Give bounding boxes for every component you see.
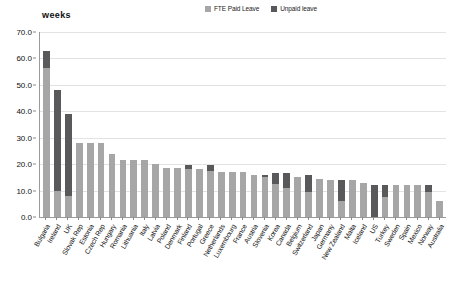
bar-stack[interactable] — [207, 165, 214, 217]
bar-column[interactable] — [128, 32, 139, 217]
bar-stack[interactable] — [316, 179, 323, 217]
bar-stack[interactable] — [349, 180, 356, 217]
bar-column[interactable] — [117, 32, 128, 217]
bar-stack[interactable] — [218, 172, 225, 217]
bar-stack[interactable] — [229, 172, 236, 217]
bar-segment-fte-paid-leave[interactable] — [163, 168, 170, 217]
bar-segment-fte-paid-leave[interactable] — [425, 192, 432, 217]
bar-column[interactable] — [194, 32, 205, 217]
bar-segment-fte-paid-leave[interactable] — [141, 160, 148, 217]
bar-stack[interactable] — [120, 160, 127, 217]
bar-stack[interactable] — [54, 90, 61, 217]
bar-column[interactable] — [270, 32, 281, 217]
bar-stack[interactable] — [87, 143, 94, 217]
bar-stack[interactable] — [152, 164, 159, 217]
bar-segment-fte-paid-leave[interactable] — [174, 168, 181, 217]
bar-column[interactable] — [336, 32, 347, 217]
bar-segment-fte-paid-leave[interactable] — [393, 185, 400, 217]
bar-column[interactable] — [161, 32, 172, 217]
bar-stack[interactable] — [338, 180, 345, 217]
bar-segment-fte-paid-leave[interactable] — [218, 172, 225, 217]
bar-column[interactable] — [380, 32, 391, 217]
bar-column[interactable] — [423, 32, 434, 217]
bar-segment-unpaid-leave[interactable] — [283, 173, 290, 188]
bar-segment-unpaid-leave[interactable] — [272, 173, 279, 184]
bar-segment-fte-paid-leave[interactable] — [294, 177, 301, 217]
bar-column[interactable] — [303, 32, 314, 217]
bar-segment-fte-paid-leave[interactable] — [229, 172, 236, 217]
bar-segment-fte-paid-leave[interactable] — [360, 183, 367, 217]
bar-segment-fte-paid-leave[interactable] — [305, 192, 312, 217]
bar-stack[interactable] — [109, 154, 116, 217]
bar-column[interactable] — [216, 32, 227, 217]
bar-column[interactable] — [401, 32, 412, 217]
bar-segment-fte-paid-leave[interactable] — [316, 179, 323, 217]
bar-stack[interactable] — [141, 160, 148, 217]
bar-stack[interactable] — [327, 180, 334, 217]
bar-column[interactable] — [63, 32, 74, 217]
bar-segment-fte-paid-leave[interactable] — [130, 160, 137, 217]
bar-column[interactable] — [412, 32, 423, 217]
bar-stack[interactable] — [436, 201, 443, 217]
bar-stack[interactable] — [393, 185, 400, 217]
bar-stack[interactable] — [283, 173, 290, 217]
bar-column[interactable] — [85, 32, 96, 217]
bar-segment-fte-paid-leave[interactable] — [109, 154, 116, 217]
bar-segment-fte-paid-leave[interactable] — [272, 184, 279, 217]
bar-stack[interactable] — [98, 143, 105, 217]
bar-segment-unpaid-leave[interactable] — [43, 51, 50, 68]
bar-stack[interactable] — [185, 165, 192, 217]
bar-column[interactable] — [238, 32, 249, 217]
bar-column[interactable] — [347, 32, 358, 217]
bar-stack[interactable] — [43, 51, 50, 217]
bar-segment-fte-paid-leave[interactable] — [65, 196, 72, 217]
bar-column[interactable] — [107, 32, 118, 217]
bar-segment-fte-paid-leave[interactable] — [76, 143, 83, 217]
bar-column[interactable] — [369, 32, 380, 217]
bar-stack[interactable] — [272, 173, 279, 217]
bar-column[interactable] — [172, 32, 183, 217]
bar-column[interactable] — [227, 32, 238, 217]
bar-stack[interactable] — [360, 183, 367, 217]
bar-segment-fte-paid-leave[interactable] — [185, 169, 192, 217]
bar-column[interactable] — [314, 32, 325, 217]
bar-stack[interactable] — [163, 168, 170, 217]
bar-segment-fte-paid-leave[interactable] — [87, 143, 94, 217]
bar-segment-fte-paid-leave[interactable] — [414, 185, 421, 217]
bar-segment-fte-paid-leave[interactable] — [349, 180, 356, 217]
bar-segment-fte-paid-leave[interactable] — [54, 191, 61, 217]
bar-stack[interactable] — [425, 185, 432, 217]
bar-column[interactable] — [150, 32, 161, 217]
bar-segment-unpaid-leave[interactable] — [371, 185, 378, 217]
bar-stack[interactable] — [240, 172, 247, 217]
bar-column[interactable] — [358, 32, 369, 217]
bar-stack[interactable] — [382, 185, 389, 217]
bar-segment-unpaid-leave[interactable] — [338, 180, 345, 201]
bar-segment-fte-paid-leave[interactable] — [327, 180, 334, 217]
bar-column[interactable] — [259, 32, 270, 217]
bar-column[interactable] — [281, 32, 292, 217]
bar-stack[interactable] — [65, 114, 72, 217]
bar-column[interactable] — [249, 32, 260, 217]
bar-segment-fte-paid-leave[interactable] — [196, 169, 203, 217]
bar-segment-fte-paid-leave[interactable] — [283, 188, 290, 217]
bar-column[interactable] — [52, 32, 63, 217]
bar-column[interactable] — [96, 32, 107, 217]
bar-stack[interactable] — [404, 185, 411, 217]
bar-segment-unpaid-leave[interactable] — [305, 175, 312, 192]
bar-column[interactable] — [139, 32, 150, 217]
bar-segment-fte-paid-leave[interactable] — [251, 175, 258, 217]
bar-stack[interactable] — [262, 175, 269, 217]
bar-segment-fte-paid-leave[interactable] — [240, 172, 247, 217]
bar-column[interactable] — [325, 32, 336, 217]
bar-stack[interactable] — [414, 185, 421, 217]
bar-stack[interactable] — [174, 168, 181, 217]
bar-segment-unpaid-leave[interactable] — [425, 185, 432, 192]
bar-segment-fte-paid-leave[interactable] — [43, 68, 50, 217]
bar-column[interactable] — [74, 32, 85, 217]
bar-segment-fte-paid-leave[interactable] — [404, 185, 411, 217]
bar-stack[interactable] — [305, 175, 312, 217]
bar-column[interactable] — [391, 32, 402, 217]
bar-segment-unpaid-leave[interactable] — [54, 90, 61, 190]
bar-column[interactable] — [183, 32, 194, 217]
